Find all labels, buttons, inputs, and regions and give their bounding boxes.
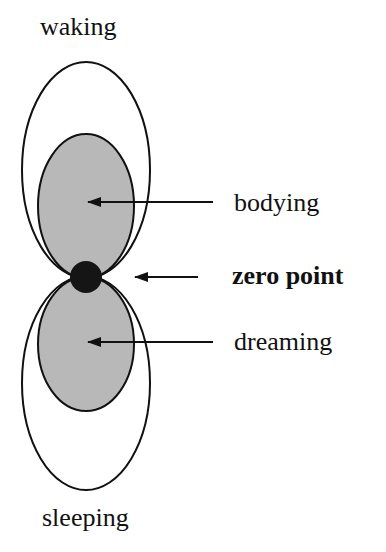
label-waking: waking [40,14,117,40]
label-zero-point: zero point [232,263,343,289]
label-bodying: bodying [234,190,319,216]
zero-point-dot [70,261,102,293]
dreaming-inner-ellipse [38,277,134,411]
bodying-inner-ellipse [38,134,134,278]
label-dreaming: dreaming [234,329,332,355]
label-sleeping: sleeping [42,505,129,531]
